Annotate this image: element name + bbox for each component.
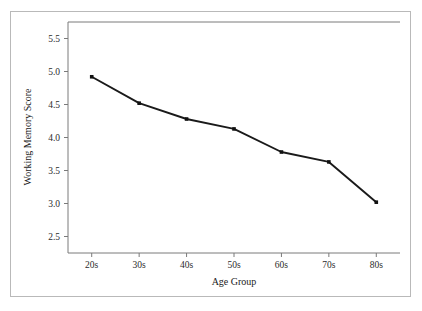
y-tick-label: 4.0 <box>48 133 60 143</box>
y-axis-ticks: 2.53.03.54.04.55.05.5 <box>48 34 68 242</box>
x-tick-label: 70s <box>322 260 336 270</box>
x-axis-title: Age Group <box>212 276 257 287</box>
data-point-marker <box>232 127 236 131</box>
x-tick-label: 20s <box>85 260 99 270</box>
x-tick-label: 50s <box>227 260 241 270</box>
axis-lines <box>68 22 400 253</box>
data-point-marker <box>137 101 141 105</box>
y-tick-label: 3.0 <box>48 199 60 209</box>
x-tick-label: 40s <box>180 260 194 270</box>
chart-figure: 2.53.03.54.04.55.05.5 20s30s40s50s60s70s… <box>0 0 422 311</box>
data-point-marker <box>280 150 284 154</box>
y-tick-label: 5.0 <box>48 67 60 77</box>
data-markers <box>90 75 378 204</box>
line-chart: 2.53.03.54.04.55.05.5 20s30s40s50s60s70s… <box>0 0 422 311</box>
y-tick-label: 2.5 <box>48 232 60 242</box>
data-point-marker <box>90 75 94 79</box>
data-point-marker <box>185 117 189 121</box>
y-tick-label: 4.5 <box>48 100 60 110</box>
x-axis-ticks: 20s30s40s50s60s70s80s <box>85 253 383 270</box>
data-point-marker <box>327 160 331 164</box>
x-tick-label: 80s <box>370 260 384 270</box>
data-point-marker <box>374 200 378 204</box>
x-tick-label: 30s <box>133 260 147 270</box>
x-tick-label: 60s <box>275 260 289 270</box>
chart-axes <box>68 22 400 253</box>
data-line-working-memory <box>92 77 377 202</box>
y-tick-label: 5.5 <box>48 34 60 44</box>
y-tick-label: 3.5 <box>48 166 60 176</box>
y-axis-title: Working Memory Score <box>22 88 33 186</box>
